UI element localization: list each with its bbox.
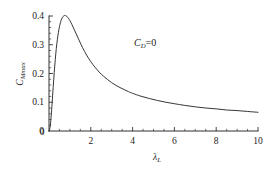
x-tick-label: 10 (253, 136, 263, 146)
y-tick-label: 0.1 (32, 97, 44, 107)
plot-annotation-cd: CD=0 (134, 37, 156, 49)
x-tick-label: 6 (172, 136, 177, 146)
x-tick-label: 8 (214, 136, 219, 146)
x-tick-label: 4 (130, 136, 135, 146)
y-tick-label: 0.4 (32, 11, 44, 21)
y-tick-label: 0.3 (32, 40, 44, 50)
line-chart: 0246810 00.10.20.30.4 λL CMmax CD=0 (0, 0, 270, 170)
chart-background (0, 0, 270, 170)
y-tick-label: 0 (39, 126, 44, 136)
x-tick-label: 2 (88, 136, 93, 146)
y-tick-label: 0.2 (32, 69, 44, 79)
chart-figure: 0246810 00.10.20.30.4 λL CMmax CD=0 (0, 0, 270, 170)
